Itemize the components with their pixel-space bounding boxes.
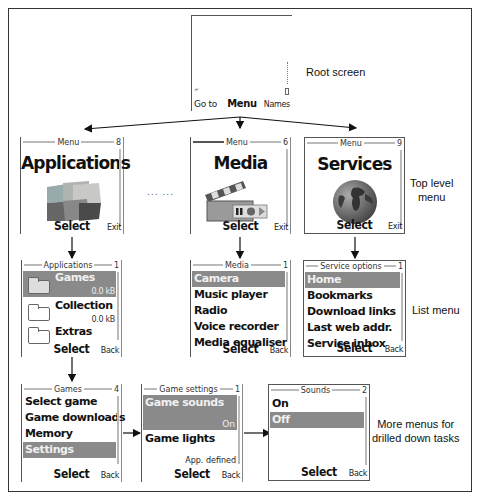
title-line-right bbox=[250, 141, 281, 143]
back-softkey[interactable]: Back bbox=[349, 469, 367, 478]
back-softkey[interactable]: Back bbox=[101, 471, 119, 480]
screen-title: Sounds bbox=[301, 386, 330, 395]
list-item-radio[interactable]: Radio bbox=[192, 303, 285, 319]
select-softkey[interactable]: Select bbox=[54, 219, 90, 233]
setting-label: Game lights bbox=[145, 432, 215, 445]
scrollbar[interactable] bbox=[401, 273, 403, 341]
title-bar: Games 4 bbox=[22, 384, 121, 394]
back-softkey[interactable]: Back bbox=[222, 471, 240, 480]
softkeys: Select Back bbox=[142, 466, 242, 482]
exit-softkey[interactable]: Exit bbox=[274, 223, 288, 232]
select-softkey[interactable]: Select bbox=[174, 467, 210, 481]
title-line-right bbox=[220, 388, 233, 390]
back-softkey[interactable]: Back bbox=[270, 346, 288, 355]
exit-softkey[interactable]: Exit bbox=[388, 222, 402, 231]
list-position: 1 bbox=[114, 261, 121, 270]
menu-softkey[interactable]: Menu bbox=[227, 97, 256, 110]
menu-count: 8 bbox=[116, 138, 123, 147]
menu-count: 9 bbox=[397, 139, 404, 148]
title-line-right bbox=[84, 388, 112, 390]
list-position: 1 bbox=[235, 385, 242, 394]
list-position: 4 bbox=[114, 385, 121, 394]
title-bar: Media 1 bbox=[191, 260, 290, 270]
list-item-voice-recorder[interactable]: Voice recorder bbox=[192, 319, 285, 335]
scrollbar[interactable] bbox=[286, 149, 288, 227]
scrollbar[interactable] bbox=[117, 396, 119, 464]
title-line-right bbox=[332, 389, 360, 391]
screen-title: Game settings bbox=[159, 385, 217, 394]
title-line-right bbox=[94, 264, 112, 266]
item-label: Extras bbox=[55, 325, 92, 338]
title-bar: Game settings 1 bbox=[142, 384, 242, 394]
label-top-level-menu: Top level menu bbox=[410, 176, 453, 204]
select-softkey[interactable]: Select bbox=[54, 342, 90, 356]
sounds-list: On Off bbox=[270, 396, 364, 428]
list-item-download-links[interactable]: Download links bbox=[305, 304, 400, 320]
setting-game-sounds[interactable]: Game sounds On bbox=[143, 395, 237, 430]
menu-heading: Services bbox=[305, 154, 404, 174]
title-line-left bbox=[307, 142, 338, 144]
names-softkey[interactable]: Names bbox=[264, 100, 290, 109]
list-item-memory[interactable]: Memory bbox=[23, 426, 116, 442]
list-item-music-player[interactable]: Music player bbox=[192, 287, 285, 303]
exit-softkey[interactable]: Exit bbox=[107, 223, 121, 232]
menu-count: 6 bbox=[283, 138, 290, 147]
games-list-screen: Games 4 Select game Game downloads Memor… bbox=[21, 384, 122, 482]
title-line-right bbox=[251, 264, 281, 266]
select-softkey[interactable]: Select bbox=[223, 342, 259, 356]
select-softkey[interactable]: Select bbox=[337, 218, 373, 232]
title-line-left bbox=[23, 141, 55, 143]
select-softkey[interactable]: Select bbox=[54, 467, 90, 481]
softkeys: Select Back bbox=[304, 340, 405, 356]
list-item-game-downloads[interactable]: Game downloads bbox=[23, 410, 116, 426]
applications-list-screen: Applications 1 Games 0.0 kB Collection 0… bbox=[21, 260, 122, 357]
softkeys: Select Exit bbox=[191, 218, 290, 234]
scrollbar[interactable] bbox=[117, 272, 119, 340]
list-item-home[interactable]: Home bbox=[305, 272, 400, 288]
softkeys: Select Back bbox=[22, 341, 121, 357]
item-size: 0.0 kB bbox=[91, 287, 115, 296]
go-to-softkey[interactable]: Go to bbox=[194, 99, 217, 109]
list-item-settings[interactable]: Settings bbox=[23, 442, 116, 458]
back-softkey[interactable]: Back bbox=[101, 346, 119, 355]
list-item-last-web-addr[interactable]: Last web addr. bbox=[305, 320, 400, 336]
scrollbar[interactable] bbox=[238, 396, 240, 464]
battery-icon bbox=[285, 88, 289, 95]
list-item-select-game[interactable]: Select game bbox=[23, 394, 116, 410]
folder-icon bbox=[28, 280, 50, 294]
scrollbar[interactable] bbox=[119, 149, 121, 227]
scrollbar[interactable] bbox=[286, 272, 288, 340]
item-label: Games bbox=[55, 271, 95, 284]
select-softkey[interactable]: Select bbox=[223, 219, 259, 233]
select-softkey[interactable]: Select bbox=[301, 465, 337, 479]
setting-label: Game sounds bbox=[145, 396, 224, 409]
title-bar: Service options 1 bbox=[304, 261, 405, 271]
list-item-games[interactable]: Games 0.0 kB bbox=[23, 271, 116, 297]
setting-value: On bbox=[222, 419, 235, 429]
softkeys: Select Back bbox=[22, 466, 121, 482]
label-root-screen: Root screen bbox=[306, 65, 365, 79]
option-off[interactable]: Off bbox=[270, 412, 364, 428]
title-bar: Menu 9 bbox=[305, 138, 404, 148]
select-softkey[interactable]: Select bbox=[337, 341, 373, 355]
screen-title: Menu bbox=[340, 139, 362, 148]
list-item-bookmarks[interactable]: Bookmarks bbox=[305, 288, 400, 304]
back-softkey[interactable]: Back bbox=[385, 345, 403, 354]
scrollbar[interactable] bbox=[365, 397, 367, 465]
sounds-screen: Sounds 2 On Off Select Back bbox=[268, 384, 370, 481]
title-line-right bbox=[81, 141, 113, 143]
option-on[interactable]: On bbox=[270, 396, 364, 412]
setting-game-lights[interactable]: Game lights App. defined bbox=[143, 431, 237, 465]
list-item-collection[interactable]: Collection 0.0 kB bbox=[23, 298, 116, 324]
media-list-screen: Media 1 Camera Music player Radio Voice … bbox=[190, 260, 291, 357]
services-menu-screen: Menu 9 Services Select Exit bbox=[304, 137, 405, 234]
label-list-menu: List menu bbox=[412, 303, 460, 317]
softkeys: Select Exit bbox=[305, 217, 404, 233]
item-label: Collection bbox=[55, 299, 113, 312]
title-bar: Menu 6 bbox=[191, 137, 290, 147]
list-item-camera[interactable]: Camera bbox=[192, 271, 285, 287]
list-position: 1 bbox=[398, 262, 405, 271]
cubes-icon[interactable] bbox=[43, 179, 105, 223]
clapperboard-icon[interactable] bbox=[203, 177, 269, 223]
list-item-extras[interactable]: Extras bbox=[23, 324, 116, 342]
